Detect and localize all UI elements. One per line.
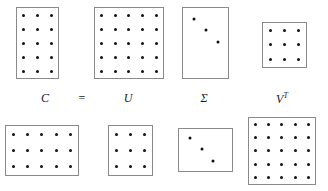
matrix-entry-dot bbox=[26, 133, 29, 136]
matrix-entry-dot bbox=[155, 14, 158, 17]
matrix-entry-dot bbox=[155, 42, 158, 45]
matrix-entry-dot bbox=[127, 14, 130, 17]
matrix-entry-dot bbox=[100, 28, 103, 31]
dot-grid bbox=[6, 126, 78, 175]
singular-value-dot bbox=[189, 136, 192, 139]
matrix-entry-dot bbox=[115, 133, 118, 136]
matrix-entry-dot bbox=[294, 123, 297, 126]
matrix-entry-dot bbox=[55, 165, 58, 168]
matrix-entry-dot bbox=[114, 70, 117, 73]
matrix-entry-dot bbox=[280, 176, 283, 179]
matrix-entry-dot bbox=[22, 56, 25, 59]
matrix-entry-dot bbox=[55, 133, 58, 136]
matrix-entry-dot bbox=[283, 29, 286, 32]
matrix-entry-dot bbox=[129, 133, 132, 136]
matrix-entry-dot bbox=[143, 133, 146, 136]
matrix-label-c: C bbox=[41, 92, 49, 104]
matrix-entry-dot bbox=[127, 70, 130, 73]
matrix-entry-dot bbox=[50, 56, 53, 59]
matrix-entry-dot bbox=[141, 28, 144, 31]
matrix-entry-dot bbox=[283, 43, 286, 46]
matrix-entry-dot bbox=[297, 58, 300, 61]
matrix-entry-dot bbox=[129, 149, 132, 152]
matrix-entry-dot bbox=[40, 133, 43, 136]
matrix-entry-dot bbox=[294, 136, 297, 139]
dot-grid bbox=[249, 118, 315, 184]
matrix-entry-dot bbox=[100, 56, 103, 59]
matrix-entry-dot bbox=[141, 42, 144, 45]
label-base: U bbox=[124, 91, 133, 105]
matrix-entry-dot bbox=[267, 123, 270, 126]
matrix-entry-dot bbox=[127, 56, 130, 59]
matrix-label-s: Σ bbox=[200, 92, 207, 104]
matrix-v-transpose bbox=[262, 22, 307, 68]
matrix-entry-dot bbox=[155, 56, 158, 59]
matrix-entry-dot bbox=[269, 43, 272, 46]
matrix-entry-dot bbox=[294, 163, 297, 166]
matrix-entry-dot bbox=[100, 42, 103, 45]
matrix-entry-dot bbox=[307, 176, 310, 179]
label-base: Σ bbox=[200, 91, 207, 105]
matrix-entry-dot bbox=[114, 56, 117, 59]
matrix-label-vt: VT bbox=[276, 92, 288, 105]
matrix-sigma bbox=[182, 7, 229, 79]
label-base: = bbox=[79, 91, 86, 105]
matrix-entry-dot bbox=[115, 149, 118, 152]
matrix-entry-dot bbox=[26, 149, 29, 152]
matrix-entry-dot bbox=[155, 28, 158, 31]
matrix-entry-dot bbox=[280, 123, 283, 126]
matrix-entry-dot bbox=[294, 176, 297, 179]
matrix-entry-dot bbox=[129, 165, 132, 168]
dot-grid bbox=[263, 23, 306, 67]
matrix-entry-dot bbox=[254, 176, 257, 179]
dot-grid bbox=[17, 8, 58, 78]
matrix-entry-dot bbox=[254, 149, 257, 152]
matrix-entry-dot bbox=[69, 149, 72, 152]
matrix-entry-dot bbox=[12, 165, 15, 168]
matrix-entry-dot bbox=[267, 163, 270, 166]
matrix-entry-dot bbox=[280, 149, 283, 152]
matrix-entry-dot bbox=[36, 14, 39, 17]
matrix-entry-dot bbox=[50, 42, 53, 45]
matrix-label-u: U bbox=[124, 92, 133, 104]
matrix-entry-dot bbox=[36, 28, 39, 31]
matrix-entry-dot bbox=[36, 70, 39, 73]
matrix-entry-dot bbox=[141, 56, 144, 59]
matrix-entry-dot bbox=[143, 165, 146, 168]
label-superscript: T bbox=[283, 91, 287, 100]
matrix-entry-dot bbox=[141, 70, 144, 73]
matrix-sigma-wide bbox=[178, 128, 233, 172]
matrix-entry-dot bbox=[269, 29, 272, 32]
matrix-entry-dot bbox=[307, 136, 310, 139]
matrix-v-transpose-large bbox=[248, 117, 316, 185]
matrix-entry-dot bbox=[307, 149, 310, 152]
matrix-entry-dot bbox=[40, 149, 43, 152]
matrix-u-small bbox=[108, 125, 153, 176]
matrix-entry-dot bbox=[22, 28, 25, 31]
matrix-entry-dot bbox=[115, 165, 118, 168]
matrix-entry-dot bbox=[280, 136, 283, 139]
matrix-entry-dot bbox=[22, 14, 25, 17]
matrix-entry-dot bbox=[40, 165, 43, 168]
matrix-entry-dot bbox=[254, 163, 257, 166]
matrix-entry-dot bbox=[55, 149, 58, 152]
matrix-entry-dot bbox=[307, 163, 310, 166]
matrix-entry-dot bbox=[267, 136, 270, 139]
singular-value-dot bbox=[205, 29, 208, 32]
matrix-c-wide bbox=[5, 125, 79, 176]
matrix-entry-dot bbox=[114, 14, 117, 17]
matrix-label-eq: = bbox=[79, 92, 86, 104]
matrix-entry-dot bbox=[143, 149, 146, 152]
matrix-entry-dot bbox=[100, 14, 103, 17]
matrix-entry-dot bbox=[307, 123, 310, 126]
dot-grid bbox=[109, 126, 152, 175]
matrix-entry-dot bbox=[22, 42, 25, 45]
matrix-entry-dot bbox=[283, 58, 286, 61]
matrix-entry-dot bbox=[267, 149, 270, 152]
matrix-entry-dot bbox=[127, 28, 130, 31]
matrix-entry-dot bbox=[155, 70, 158, 73]
matrix-entry-dot bbox=[127, 42, 130, 45]
matrix-entry-dot bbox=[280, 163, 283, 166]
label-base: C bbox=[41, 91, 49, 105]
matrix-entry-dot bbox=[269, 58, 272, 61]
